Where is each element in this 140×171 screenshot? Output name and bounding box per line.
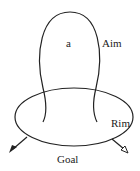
right-arrow-line (112, 139, 124, 149)
rim-label: Rim (111, 118, 130, 129)
aim-loop (40, 12, 100, 122)
inner-label: a (66, 38, 71, 49)
diagram-canvas (0, 0, 140, 171)
aim-label: Aim (102, 38, 122, 49)
goal-label: Goal (57, 154, 78, 165)
